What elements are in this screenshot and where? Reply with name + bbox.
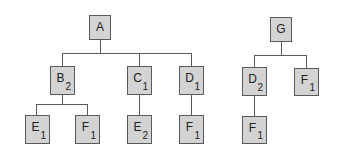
edge-line bbox=[36, 104, 37, 115]
edge-line bbox=[36, 104, 88, 105]
node-label: A bbox=[90, 21, 110, 33]
tree-node-a: A bbox=[89, 15, 111, 40]
node-label: G bbox=[271, 23, 291, 35]
edge-line bbox=[139, 95, 140, 115]
tree-node-b: B2 bbox=[50, 66, 75, 95]
edge-line bbox=[191, 53, 192, 66]
tree-node-d3: D2 bbox=[242, 67, 267, 96]
edge-line bbox=[254, 55, 255, 67]
tree-node-g: G bbox=[270, 17, 292, 42]
tree-node-c: C1 bbox=[127, 66, 152, 95]
node-subscript: 1 bbox=[257, 131, 263, 141]
edge-line bbox=[62, 95, 63, 104]
edge-line bbox=[87, 104, 88, 115]
edge-line bbox=[139, 53, 140, 66]
edge-line bbox=[62, 53, 192, 54]
node-subscript: 1 bbox=[194, 82, 200, 92]
node-subscript: 2 bbox=[257, 83, 263, 93]
tree-diagram: AB2C1D1E1F1E2F1GD2F1F1 bbox=[0, 0, 337, 168]
edge-line bbox=[281, 42, 282, 55]
node-subscript: 1 bbox=[142, 82, 148, 92]
edge-line bbox=[62, 53, 63, 66]
tree-node-f1: F1 bbox=[75, 115, 100, 144]
node-subscript: 1 bbox=[194, 131, 200, 141]
node-subscript: 2 bbox=[65, 82, 71, 92]
tree-node-f3: F1 bbox=[294, 68, 319, 96]
edge-line bbox=[191, 95, 192, 115]
edge-line bbox=[100, 40, 101, 53]
node-subscript: 1 bbox=[90, 131, 96, 141]
node-subscript: 1 bbox=[40, 131, 46, 141]
edge-line bbox=[306, 55, 307, 68]
tree-node-e1: E1 bbox=[25, 115, 50, 144]
edge-line bbox=[254, 96, 255, 116]
tree-node-f4: F1 bbox=[242, 116, 267, 144]
tree-node-d: D1 bbox=[179, 66, 204, 95]
edge-line bbox=[254, 55, 307, 56]
tree-node-f2: F1 bbox=[179, 115, 204, 144]
node-subscript: 2 bbox=[142, 131, 148, 141]
node-subscript: 1 bbox=[309, 83, 315, 93]
tree-node-e2: E2 bbox=[127, 115, 152, 144]
